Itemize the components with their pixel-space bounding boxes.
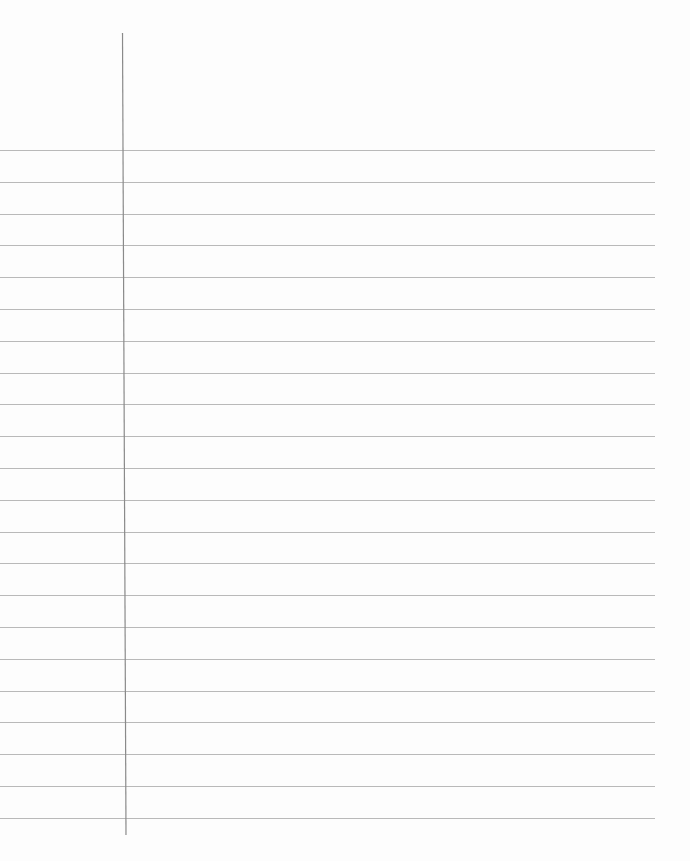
lined-paper-sheet [0, 0, 690, 861]
margin-line [0, 0, 690, 861]
